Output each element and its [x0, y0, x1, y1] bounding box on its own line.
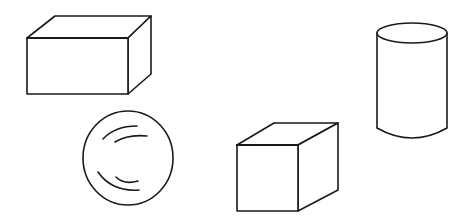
cube-front-face [237, 145, 298, 211]
cylinder-top-ellipse [377, 23, 447, 43]
rectangular-prism-shape [27, 16, 151, 94]
sphere-outline [83, 111, 173, 205]
cylinder-body [377, 33, 447, 138]
shapes-figure [0, 0, 472, 221]
prism-front-face [27, 38, 128, 94]
cylinder-shape [377, 23, 447, 138]
sphere-shape [83, 111, 173, 205]
cube-shape [237, 123, 338, 211]
